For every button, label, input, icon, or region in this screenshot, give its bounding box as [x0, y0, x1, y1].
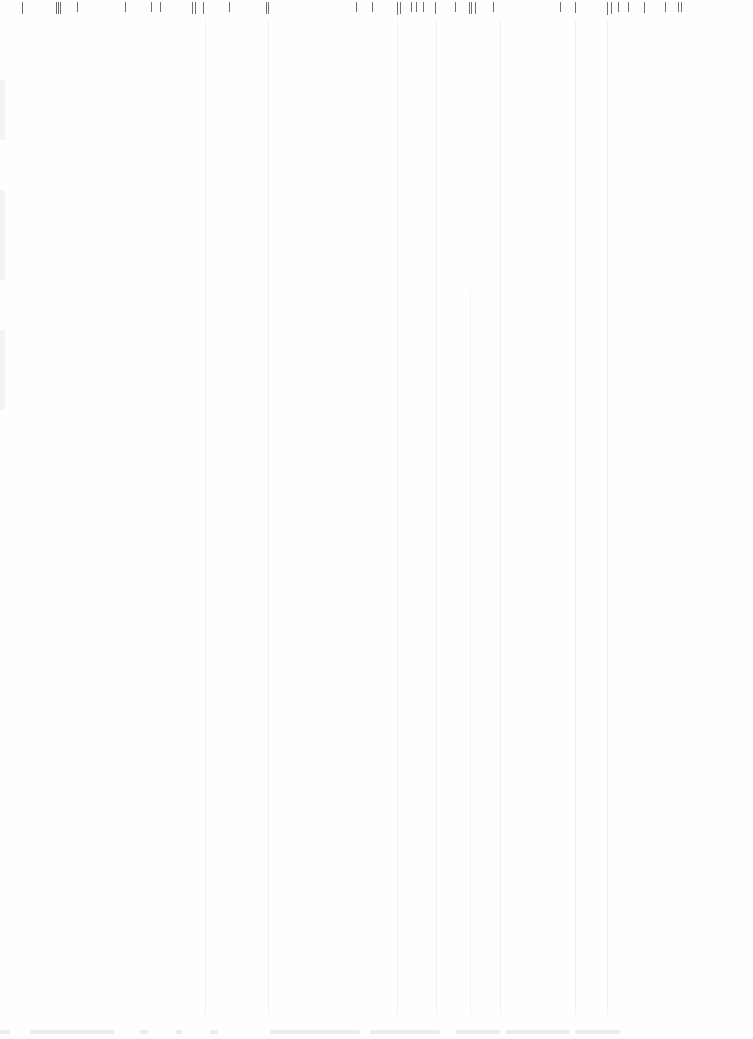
tick-mark — [469, 2, 470, 14]
tick-mark — [681, 2, 682, 12]
smudge — [0, 80, 5, 140]
tick-mark — [455, 2, 456, 12]
tick-mark — [411, 2, 412, 12]
smudge — [0, 330, 5, 410]
tick-mark — [423, 2, 424, 12]
tick-mark — [628, 2, 629, 12]
illegible-text-mark — [575, 1030, 620, 1034]
tick-mark — [22, 2, 23, 14]
tick-mark — [160, 2, 161, 12]
column-line — [470, 290, 471, 1015]
illegible-text-mark — [175, 1030, 183, 1034]
illegible-text-mark — [210, 1030, 218, 1034]
illegible-text-mark — [270, 1030, 360, 1034]
tick-mark — [372, 2, 373, 12]
tick-mark — [58, 2, 59, 14]
illegible-text-mark — [140, 1030, 148, 1034]
smudge — [0, 190, 5, 280]
tick-mark — [475, 2, 476, 14]
tick-mark — [195, 2, 196, 14]
tick-mark — [471, 2, 472, 14]
scanned-page — [0, 0, 753, 1039]
illegible-text-mark — [505, 1030, 570, 1034]
tick-mark — [644, 2, 645, 13]
column-line — [268, 20, 269, 1015]
tick-mark — [665, 2, 666, 12]
tick-mark — [400, 2, 401, 14]
tick-mark — [607, 2, 608, 15]
tick-mark — [678, 2, 679, 12]
tick-mark — [435, 2, 436, 14]
illegible-text-mark — [30, 1030, 115, 1034]
illegible-text-mark — [370, 1030, 440, 1034]
tick-mark — [416, 2, 417, 12]
top-tick-marks — [0, 0, 753, 16]
column-line — [436, 20, 437, 1015]
tick-mark — [203, 2, 204, 14]
tick-mark — [575, 2, 576, 13]
column-line — [607, 20, 608, 1015]
illegible-text-mark — [605, 1030, 611, 1034]
tick-mark — [397, 2, 398, 15]
illegible-footer-text — [0, 1022, 753, 1039]
tick-mark — [493, 2, 494, 12]
illegible-text-mark — [455, 1030, 500, 1034]
column-line — [500, 20, 501, 1015]
tick-mark — [611, 2, 612, 14]
tick-mark — [560, 2, 561, 12]
column-line — [397, 20, 398, 1015]
tick-mark — [60, 2, 61, 14]
column-line — [205, 20, 206, 1015]
tick-mark — [192, 2, 193, 14]
tick-mark — [266, 2, 267, 14]
tick-mark — [125, 2, 126, 12]
column-line — [575, 20, 576, 1015]
tick-mark — [268, 2, 269, 14]
illegible-text-mark — [0, 1030, 10, 1034]
tick-mark — [618, 2, 619, 12]
tick-mark — [77, 2, 78, 12]
tick-mark — [151, 2, 152, 12]
tick-mark — [56, 2, 57, 14]
tick-mark — [229, 2, 230, 12]
tick-mark — [356, 2, 357, 12]
